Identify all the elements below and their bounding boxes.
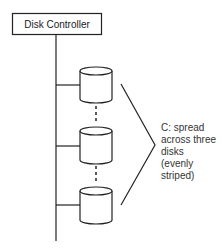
disk-controller-label: Disk Controller [24, 19, 90, 30]
annotation-line-3: disks [161, 146, 184, 157]
disk-controller-box: Disk Controller [13, 14, 102, 35]
annotation-line-1: C: spread [161, 122, 204, 133]
disk-cylinder-3-icon [80, 187, 112, 224]
grouping-bracket [121, 84, 155, 205]
annotation-line-5: striped) [161, 170, 194, 181]
disk-cylinder-2-icon [80, 127, 112, 164]
annotation-line-4: (evenly [161, 158, 193, 169]
annotation-line-2: across three [161, 134, 216, 145]
disk-striping-diagram: Disk Controller C: spread across three d… [0, 0, 222, 250]
disk-cylinder-1-icon [80, 67, 112, 103]
striping-annotation: C: spread across three disks (evenly str… [161, 122, 216, 181]
